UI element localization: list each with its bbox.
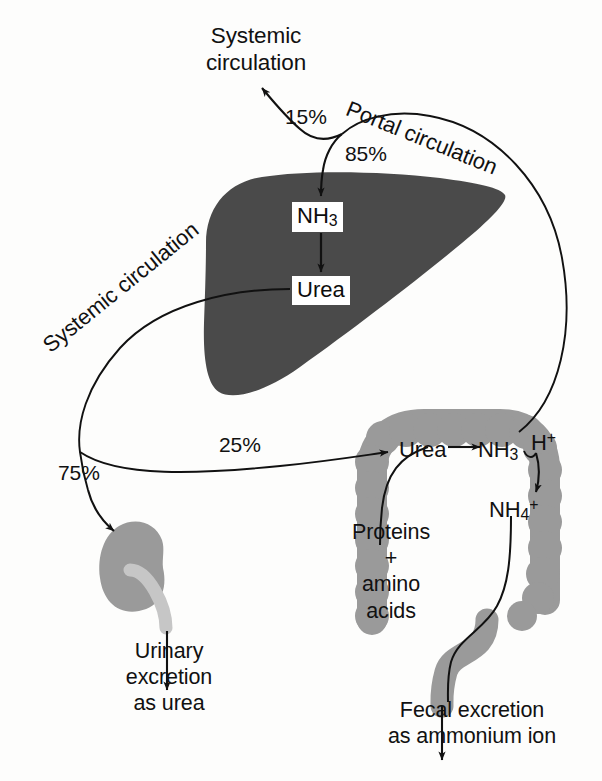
liver-urea-node: Urea bbox=[292, 276, 350, 305]
percent-85-label: 85% bbox=[345, 141, 387, 167]
liver-shape bbox=[204, 172, 506, 395]
systemic-circulation-top-label: Systemic circulation bbox=[186, 22, 326, 77]
kidney-shape bbox=[99, 521, 166, 628]
colon-ammonium-node: NH4+ bbox=[489, 495, 538, 524]
proteins-amino-acids-label: Proteins + amino acids bbox=[336, 519, 446, 624]
percent-15-label: 15% bbox=[285, 104, 327, 130]
percent-25-label: 25% bbox=[219, 432, 261, 458]
urinary-excretion-label: Urinary excretion as urea bbox=[94, 638, 244, 717]
liver-ammonia-node: NH3 bbox=[292, 202, 343, 232]
colon-ammonia-node: NH3 bbox=[478, 437, 518, 465]
urea-metabolism-diagram: Systemic circulation Portal circulation … bbox=[0, 0, 602, 781]
fecal-excretion-label: Fecal excretion as ammonium ion bbox=[350, 697, 594, 749]
percent-75-label: 75% bbox=[58, 460, 100, 486]
colon-urea-node: Urea bbox=[399, 437, 446, 464]
colon-proton-node: H+ bbox=[531, 428, 556, 456]
